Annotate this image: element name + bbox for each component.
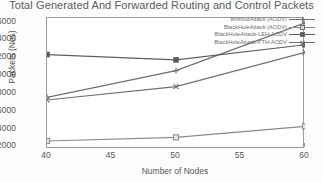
legend-item[interactable]: BlackHoleAttack-PTH-AODV	[175, 39, 315, 47]
data-point-marker	[173, 135, 178, 140]
y-tick-label: 14000	[0, 33, 16, 43]
chart-figure: Total Generated And Forwarded Routing an…	[0, 0, 323, 183]
legend-item[interactable]: WithoutAttack (AODV)	[175, 16, 315, 24]
legend-swatch	[289, 31, 315, 38]
y-tick-label: 16000	[0, 16, 16, 26]
data-point-marker	[173, 68, 179, 74]
legend-swatch	[289, 24, 315, 31]
data-point-marker	[47, 52, 50, 58]
legend-label: BlackHoleAttack (AODV)	[224, 25, 289, 31]
x-axis-label: Number of Nodes	[46, 166, 304, 176]
y-tick-label: 8000	[0, 87, 16, 97]
legend-marker-icon	[300, 40, 305, 45]
chart-title: Total Generated And Forwarded Routing an…	[0, 0, 323, 11]
legend-label: BlackHoleAttack-PTH-AODV	[214, 40, 289, 46]
data-point-marker	[173, 57, 179, 63]
y-tick-label: 4000	[0, 123, 16, 133]
x-tick-label: 40	[31, 150, 61, 160]
y-tick-label: 10000	[0, 69, 16, 79]
legend-item[interactable]: BlackHoleAttack-LEH-AODV	[175, 31, 315, 39]
legend-marker-icon	[300, 25, 305, 30]
y-tick-label: 2000	[0, 140, 16, 150]
legend-label: WithoutAttack (AODV)	[230, 17, 289, 23]
y-tick-label: 6000	[0, 105, 16, 115]
y-tick-label: 12000	[0, 51, 16, 61]
legend-swatch	[289, 16, 315, 23]
legend-swatch	[289, 39, 315, 46]
legend-label: BlackHoleAttack-LEH-AODV	[215, 32, 289, 38]
legend-item[interactable]: BlackHoleAttack (AODV)	[175, 24, 315, 32]
x-tick-label: 60	[289, 150, 319, 160]
data-point-marker	[302, 124, 305, 129]
chart-legend: WithoutAttack (AODV)BlackHoleAttack (AOD…	[175, 16, 315, 46]
legend-marker-icon	[300, 32, 305, 37]
legend-marker-icon	[300, 17, 305, 22]
data-point-marker	[47, 138, 50, 143]
x-tick-label: 55	[225, 150, 255, 160]
x-tick-label: 45	[96, 150, 126, 160]
x-tick-label: 50	[160, 150, 190, 160]
